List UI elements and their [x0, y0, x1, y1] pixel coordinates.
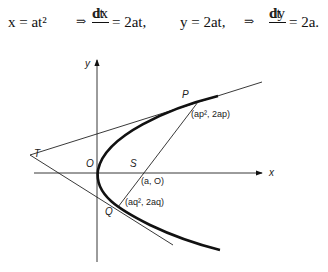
point-S-label: S [130, 158, 137, 169]
coord-P-label: (ap², 2ap) [191, 109, 230, 119]
y-axis-label: y [84, 58, 91, 69]
point-O-label: O [86, 158, 94, 169]
coord-S-label: (a, O) [141, 176, 164, 186]
point-P-label: P [182, 89, 189, 100]
point-T-label: T [34, 148, 41, 159]
parabola-diagram: y x T O S P Q (ap², 2ap) (a, O) (aq², 2a… [0, 0, 328, 272]
point-Q-label: Q [105, 206, 113, 217]
coord-Q-label: (aq², 2aq) [125, 197, 164, 207]
x-axis-label: x [268, 167, 275, 178]
